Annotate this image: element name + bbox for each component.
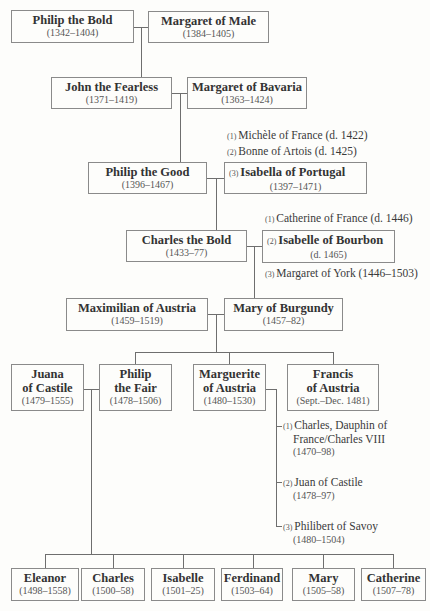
spouse-dates: (1480–1504) [283,534,378,546]
person-name-text: Isabella of Portugal [240,165,345,179]
descent-line [216,178,217,230]
marriage-order: (3) [283,523,292,532]
spouse-tick [276,426,282,427]
spouse-text: Margaret of York (1446–1503) [276,267,418,279]
spouse-note-juan-of-castile: (2)Juan of Castile (1478–97) [283,476,363,502]
person-name-line1: Marguerite [194,367,265,381]
marriage-order: (3) [265,270,274,279]
child-drop-line [45,554,46,568]
person-name-line2: of Austria [194,381,265,395]
person-mary: Mary (1505–58) [292,568,355,601]
spouse-note: (2)Bonne of Artois (d. 1425) [227,145,357,159]
child-drop-line [333,352,334,364]
descent-line [216,314,217,352]
person-dates: (1501–25) [152,585,214,597]
spouse-note: (1)Michèle of France (d. 1422) [227,129,368,143]
spouse-note: (3)Margaret of York (1446–1503) [265,267,418,281]
marriage-order: (2) [267,237,276,246]
person-isabelle-of-bourbon: (2)Isabelle of Bourbon (d. 1465) [262,230,395,263]
person-dates: (1505–58) [293,585,354,597]
person-name: Philip the Bold [12,13,133,27]
person-dates: (d. 1465) [263,249,394,261]
child-drop-line [229,352,230,364]
person-dates: (1371–1419) [52,94,171,106]
person-maximilian-of-austria: Maximilian of Austria (1459–1519) [66,298,208,331]
person-name-line2: the Fair [100,381,171,395]
person-mary-of-burgundy: Mary of Burgundy (1457–82) [224,298,343,331]
spouse-text: Catherine of France (d. 1446) [276,212,412,224]
spouse-bracket-line [276,389,277,526]
person-name: Isabelle [152,571,214,585]
person-dates: (Sept.–Dec. 1481) [288,395,378,407]
spouse-note-charles-viii: (1)Charles, Dauphin of France/Charles VI… [283,419,423,458]
person-dates: (1503–64) [222,585,282,597]
descent-line [91,389,92,554]
descent-line [254,246,255,298]
marriage-order: (1) [265,215,274,224]
descent-line [180,93,181,162]
person-philip-the-good: Philip the Good (1396–1467) [88,162,207,194]
marriage-order: (3) [229,169,238,178]
person-dates: (1457–82) [225,315,342,327]
marriage-order: (2) [227,148,236,157]
person-dates: (1342–1404) [12,27,133,39]
child-drop-line [253,554,254,568]
child-drop-line [323,554,324,568]
descent-line [141,27,142,77]
person-name: Philip the Good [89,165,206,179]
person-philip-the-bold: Philip the Bold (1342–1404) [11,10,134,43]
person-philip-the-fair: Philip the Fair (1478–1506) [99,364,172,411]
person-eleanor: Eleanor (1498–1558) [11,568,79,601]
person-name: Eleanor [12,571,78,585]
person-marguerite-of-austria: Marguerite of Austria (1480–1530) [193,364,266,411]
sibling-line [135,352,334,353]
person-dates: (1384–1405) [149,28,268,40]
person-dates: (1479–1555) [12,395,83,407]
person-juana-of-castile: Juana of Castile (1479–1555) [11,364,84,411]
person-name-text: Isabelle of Bourbon [278,233,383,247]
person-dates: (1507–78) [362,585,425,597]
person-margaret-of-bavaria: Margaret of Bavaria (1363–1424) [187,77,307,109]
person-name: Catherine [362,571,425,585]
spouse-note: (1)Catherine of France (d. 1446) [265,212,413,226]
spouse-note-philibert-of-savoy: (3)Philibert of Savoy (1480–1504) [283,520,378,546]
person-charles-the-bold: Charles the Bold (1433–77) [126,230,247,262]
person-isabelle: Isabelle (1501–25) [151,568,215,601]
person-name: Mary of Burgundy [225,301,342,315]
person-francis-of-austria: Francis of Austria (Sept.–Dec. 1481) [287,364,379,411]
marriage-order: (2) [283,479,292,488]
spouse-dates: (1478–97) [283,490,363,502]
person-dates: (1480–1530) [194,395,265,407]
person-name-line1: Philip [100,367,171,381]
person-name: Margaret of Bavaria [188,80,306,94]
person-dates: (1459–1519) [67,315,207,327]
person-name: (2)Isabelle of Bourbon [263,233,394,249]
person-name: Ferdinand [222,571,282,585]
marriage-line [266,389,276,390]
person-john-the-fearless: John the Fearless (1371–1419) [51,77,172,109]
person-dates: (1433–77) [127,247,246,259]
marriage-order: (1) [227,132,236,141]
spouse-text: Philibert of Savoy [294,520,378,532]
person-ferdinand: Ferdinand (1503–64) [221,568,283,601]
person-dates: (1396–1467) [89,179,206,191]
person-catherine: Catherine (1507–78) [361,568,426,601]
child-drop-line [183,554,184,568]
person-name: Maximilian of Austria [67,301,207,315]
spouse-text: Charles, Dauphin of [294,419,387,431]
spouse-text: Bonne of Artois (d. 1425) [238,145,357,157]
spouse-text: Juan of Castile [294,476,362,488]
person-name-line1: Juana [12,367,83,381]
child-drop-line [393,554,394,568]
spouse-text: Michèle of France (d. 1422) [238,129,367,141]
person-name: Mary [293,571,354,585]
sibling-line [45,554,394,555]
spouse-dates: (1470–98) [283,446,423,458]
spouse-text-line2: France/Charles VIII [283,433,423,446]
person-name-line1: Francis [288,367,378,381]
person-name: Charles the Bold [127,233,246,247]
person-name: (3)Isabella of Portugal [225,165,366,181]
person-dates: (1498–1558) [12,585,78,597]
marriage-order: (1) [283,422,292,431]
person-name-line2: of Austria [288,381,378,395]
